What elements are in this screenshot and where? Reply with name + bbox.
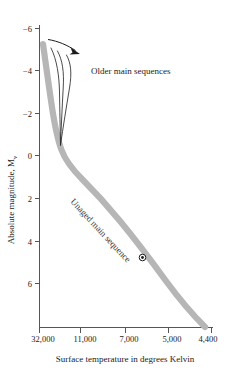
y-tick-label: −6	[23, 24, 32, 34]
y-tick-label: −4	[23, 66, 33, 76]
y-axis-title-subscript: v	[11, 155, 18, 159]
sun-marker-dot	[141, 256, 144, 259]
y-axis-title-text: Absolute magnitude, M	[6, 159, 16, 244]
unaged-main-sequence-curve	[43, 44, 205, 327]
y-tick-label: −2	[23, 109, 32, 119]
arrow-head-icon	[70, 48, 81, 55]
sun-marker-icon	[139, 254, 146, 261]
x-tick-label: 32,000	[31, 334, 54, 344]
x-tick-label: 11,000	[73, 334, 96, 344]
y-tick-label: 4	[28, 237, 33, 247]
hr-diagram-plot: −6 −4 −2 0 2 4 6 32,000 11,000 7,000 5,0…	[0, 0, 234, 380]
x-tick-label: 4,400	[198, 334, 217, 344]
y-axis-title: Absolute magnitude, Mv	[6, 155, 18, 244]
y-tick-label: 6	[28, 279, 32, 289]
y-tick-label: 2	[28, 194, 32, 204]
annotation-older-main-sequences: Older main sequences	[91, 66, 171, 76]
y-axis-title-group: Absolute magnitude, Mv	[6, 155, 18, 244]
x-tick-label: 7,000	[119, 334, 138, 344]
x-tick-label: 5,000	[162, 334, 181, 344]
y-tick-label: 0	[28, 151, 32, 161]
hr-diagram-figure: −6 −4 −2 0 2 4 6 32,000 11,000 7,000 5,0…	[0, 0, 234, 380]
annotation-unaged-main-sequence: Unaged main sequence	[69, 197, 133, 265]
turnoff-branch-3	[61, 55, 71, 145]
y-axis-ticks: −6 −4 −2 0 2 4 6	[23, 24, 40, 289]
x-axis-title: Surface temperature in degrees Kelvin	[56, 354, 195, 364]
x-axis-ticks: 32,000 11,000 7,000 5,000 4,400	[31, 328, 217, 345]
